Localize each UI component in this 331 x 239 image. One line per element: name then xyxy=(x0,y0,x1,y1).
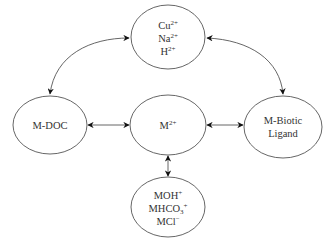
label-line-m2plus: M2+ xyxy=(160,119,177,132)
label-line-mcl: MCl− xyxy=(149,215,188,228)
label-line-h: H2+ xyxy=(158,45,178,58)
label-line-moh: MOH+ xyxy=(149,189,188,202)
label-line-mhco3: MHCO3+ xyxy=(149,202,188,215)
label-competing-cations: Cu2+ Na2+ H2+ xyxy=(158,19,178,58)
label-line-mbiotic: M-Biotic xyxy=(264,114,303,127)
label-line-mdoc: M-DOC xyxy=(32,119,67,132)
label-inorganic-complexes: MOH+ MHCO3+ MCl− xyxy=(149,189,188,228)
label-line-ligand: Ligand xyxy=(264,127,303,140)
edge-cations-mdoc-arrow xyxy=(50,38,129,94)
label-m-doc: M-DOC xyxy=(32,119,67,132)
label-free-metal: M2+ xyxy=(160,119,177,132)
edge-cations-biotic-arrow xyxy=(207,38,283,94)
label-m-biotic-ligand: M-Biotic Ligand xyxy=(264,114,303,140)
label-line-na: Na2+ xyxy=(158,32,178,45)
label-line-cu: Cu2+ xyxy=(158,19,178,32)
